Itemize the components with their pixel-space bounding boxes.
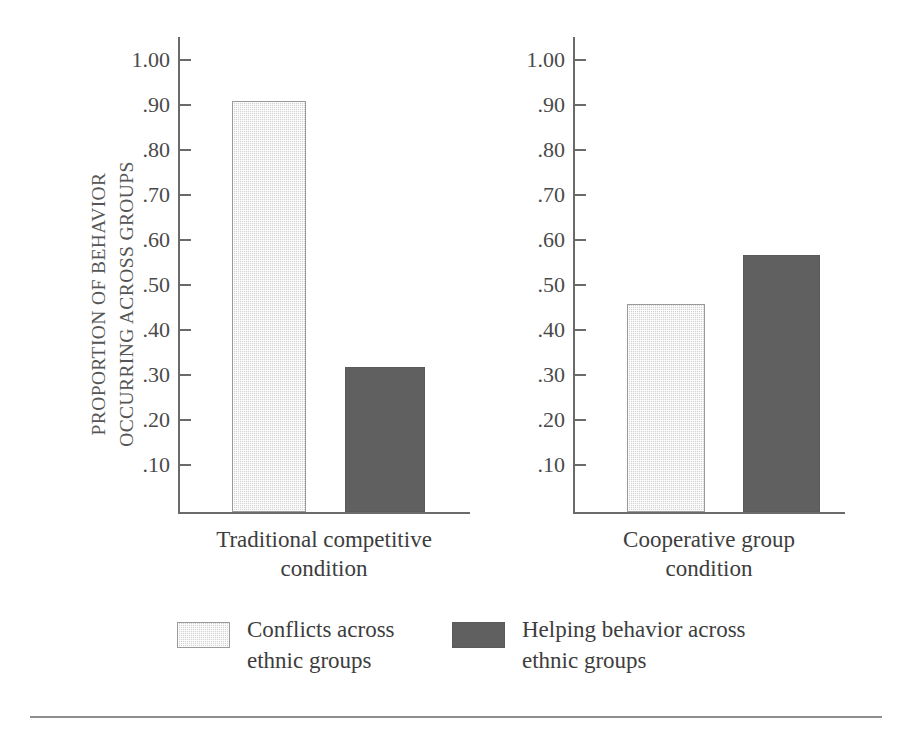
- legend-item-helping: Helping behavior across ethnic groups: [0, 0, 900, 736]
- legend-swatch-helping: [452, 622, 505, 648]
- legend-label-helping-line-1: Helping behavior across: [522, 614, 746, 645]
- legend-label-helping-line-2: ethnic groups: [522, 645, 746, 676]
- bar-chart-figure: PROPORTION OF BEHAVIOR OCCURRING ACROSS …: [0, 0, 900, 736]
- legend-label-helping: Helping behavior across ethnic groups: [522, 614, 746, 676]
- footer-divider: [30, 716, 882, 718]
